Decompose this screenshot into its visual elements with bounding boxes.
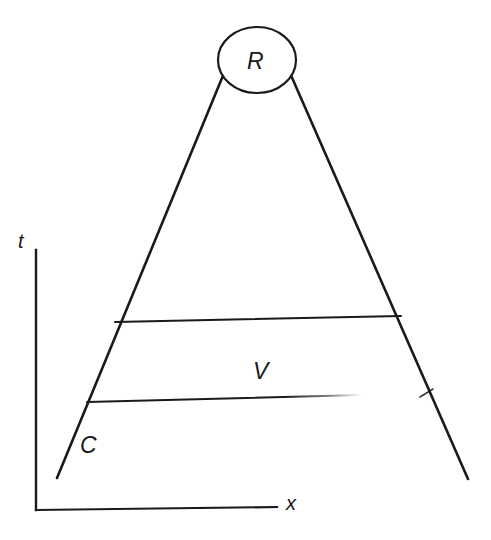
figure-canvas: R V C t x xyxy=(0,0,491,540)
region-label-V: V xyxy=(253,358,268,385)
left-characteristic-line xyxy=(57,32,241,478)
lower-time-slice-line xyxy=(87,395,362,402)
upper-time-slice-line xyxy=(115,316,401,322)
t-axis-label: t xyxy=(18,230,24,253)
region-label-C: C xyxy=(80,432,97,459)
spacetime-diagram-svg xyxy=(0,0,491,540)
right-characteristic-line xyxy=(272,32,468,479)
x-axis-line xyxy=(36,507,277,510)
region-label-R: R xyxy=(247,48,264,75)
x-axis-label: x xyxy=(286,492,296,515)
